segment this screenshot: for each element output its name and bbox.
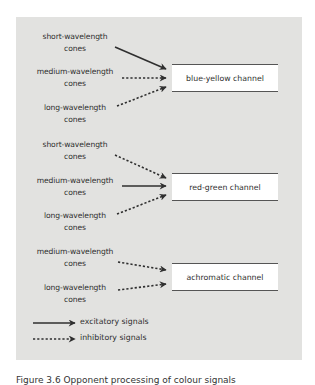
inhibitory-arrow bbox=[115, 155, 166, 178]
inhibitory-arrow bbox=[118, 284, 166, 290]
inhibitory-arrow bbox=[118, 262, 166, 270]
inhibitory-arrow bbox=[117, 87, 166, 106]
figure-caption: Figure 3.6 Opponent processing of colour… bbox=[16, 375, 236, 385]
excitatory-arrow bbox=[115, 47, 166, 69]
legend-excitatory-label: excitatory signals bbox=[80, 317, 149, 326]
legend-inhibitory-label: inhibitory signals bbox=[80, 333, 147, 342]
inhibitory-arrow bbox=[117, 195, 166, 214]
